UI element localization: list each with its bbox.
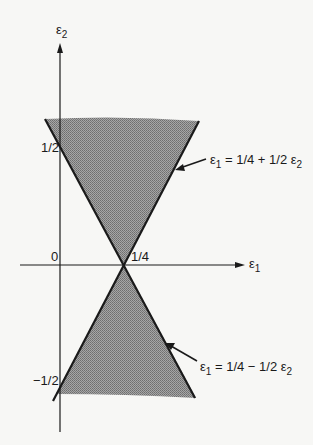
stability-region-diagram: ε2 ε1 0 1/4 1/2 −1/2 ε1 = 1/4 + 1/2 ε2 ε… — [0, 0, 313, 445]
origin-label: 0 — [51, 249, 58, 264]
equation-upper: ε1 = 1/4 + 1/2 ε2 — [210, 152, 303, 170]
tick-label-half: 1/2 — [41, 140, 59, 155]
tick-label-quarter: 1/4 — [131, 249, 149, 264]
x-axis-arrow-icon — [235, 262, 245, 268]
shaded-region-upper — [45, 117, 199, 265]
tick-label-neg-half: −1/2 — [33, 373, 59, 388]
equation-lower: ε1 = 1/4 − 1/2 ε2 — [200, 359, 293, 377]
y-axis-label: ε2 — [56, 22, 68, 40]
shaded-region-lower — [56, 265, 196, 398]
x-axis-label: ε1 — [249, 256, 261, 274]
callout-arrow-upper — [180, 159, 206, 168]
y-axis-arrow-icon — [57, 43, 63, 53]
